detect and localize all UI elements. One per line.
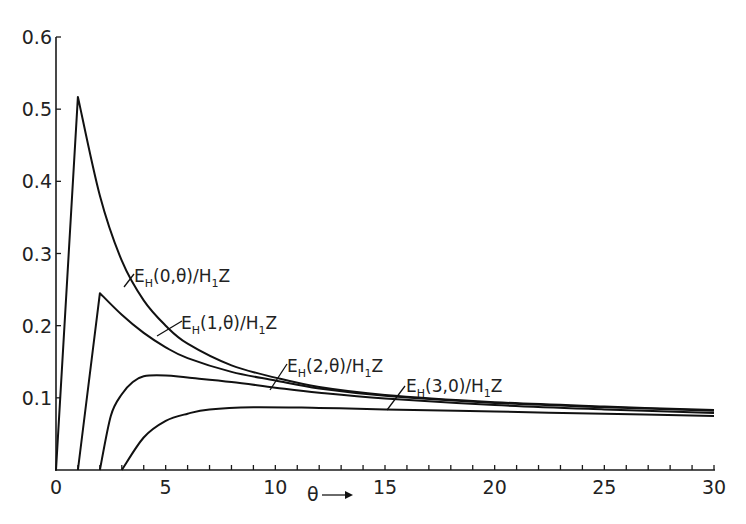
x-tick-label: 25 xyxy=(592,476,616,498)
theta-label: θ xyxy=(307,483,319,505)
leader-line-1 xyxy=(157,321,182,336)
axis-tick-labels: 0510152025300.10.20.30.40.50.6 xyxy=(22,26,726,498)
y-tick-label: 0.5 xyxy=(22,98,52,120)
series-curve-3 xyxy=(122,407,714,470)
series-label-0: EH(0,θ)/H1Z xyxy=(134,266,230,290)
y-tick-label: 0.4 xyxy=(22,170,52,192)
x-tick-label: 20 xyxy=(483,476,507,498)
series-label-3: EH(3,0)/H1Z xyxy=(406,376,503,400)
series-curve-1 xyxy=(78,293,714,470)
y-tick-label: 0.6 xyxy=(22,26,52,48)
y-tick-label: 0.2 xyxy=(22,315,52,337)
x-axis-label: θ xyxy=(307,483,353,505)
x-tick-label: 5 xyxy=(160,476,172,498)
series-label-1: EH(1,θ)/H1Z xyxy=(181,313,277,337)
arrow-right-icon xyxy=(345,491,353,499)
x-tick-label: 15 xyxy=(373,476,397,498)
line-chart: 0510152025300.10.20.30.40.50.6 EH(0,θ)/H… xyxy=(0,0,746,524)
x-tick-label: 30 xyxy=(702,476,726,498)
x-tick-label: 0 xyxy=(50,476,62,498)
series-label-2: EH(2,θ)/H1Z xyxy=(287,356,383,380)
y-tick-label: 0.3 xyxy=(22,243,52,265)
x-tick-label: 10 xyxy=(263,476,287,498)
y-tick-label: 0.1 xyxy=(22,387,52,409)
axis-ticks xyxy=(56,37,714,470)
